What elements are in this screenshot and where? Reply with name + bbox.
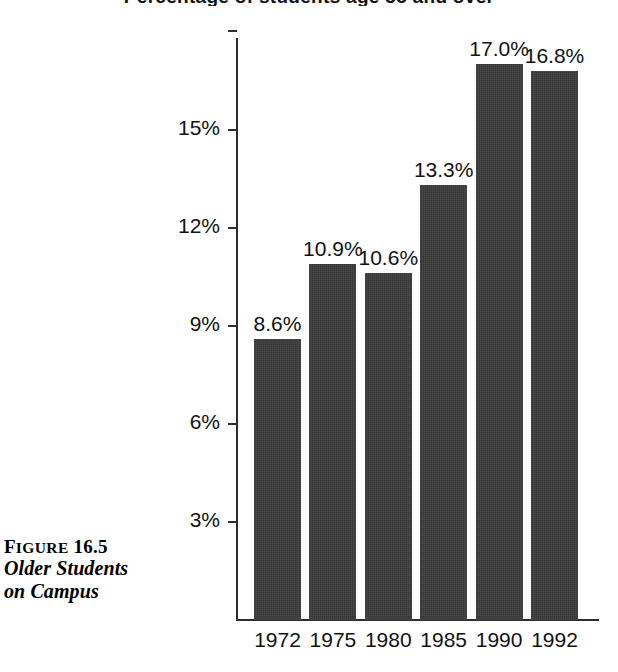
bar-value-label: 16.8% [512,44,597,68]
y-axis-tick [228,227,237,229]
bar [531,71,578,620]
y-axis-tick [228,129,237,131]
figure-caption-line-2: on Campus [4,580,174,602]
figure-number: 16.5 [74,536,108,557]
bar [365,273,412,620]
x-axis-tick-label: 1992 [519,628,590,652]
y-axis-tick-label: 12% [146,214,220,238]
y-axis-tick [228,423,237,425]
y-axis-tick-label: 9% [146,312,220,336]
bar-value-label: 10.6% [346,246,431,270]
y-axis-tick-label: 15% [146,116,220,140]
bar [476,64,523,620]
figure-word-smallcaps: IGURE [16,539,69,556]
bar-value-label: 8.6% [235,312,320,336]
y-axis-tick [228,521,237,523]
figure-word-initial: F [4,536,16,557]
bar-value-label: 13.3% [401,158,486,182]
y-axis-tick [228,30,237,32]
y-axis-tick-label: 6% [146,410,220,434]
figure-number-line: FIGURE 16.5 [4,536,174,557]
y-axis-tick-label: 3% [146,508,220,532]
figure-caption-line-1: Older Students [4,557,174,579]
figure-caption: FIGURE 16.5 Older Students on Campus [4,536,174,602]
bar [254,339,301,620]
figure-root: Percentage of students age 35 and over 3… [0,0,618,672]
